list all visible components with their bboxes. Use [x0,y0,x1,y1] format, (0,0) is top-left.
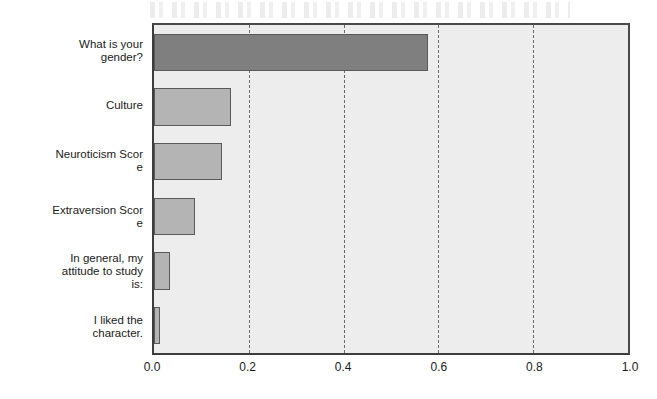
bar-band [154,298,628,353]
y-axis-label-5: I liked the character. [0,300,148,355]
bar-3 [154,198,195,235]
x-axis-tick-0.0: 0.0 [144,360,161,374]
plot-area [152,23,630,355]
y-axis-label-1: Culture [0,78,148,133]
bar-band [154,80,628,135]
x-axis-tick-0.8: 0.8 [526,360,543,374]
bar-chart: What is your gender?CultureNeuroticism S… [0,0,657,399]
y-axis-label-2: Neuroticism Scor e [0,134,148,189]
bar-band [154,134,628,189]
x-axis-tick-0.4: 0.4 [335,360,352,374]
y-axis-label-4: In general, my attitude to study is: [0,244,148,299]
x-axis-tick-0.6: 0.6 [430,360,447,374]
bar-2 [154,143,222,180]
bar-band [154,25,628,80]
bar-band [154,244,628,299]
x-axis-tick-0.2: 0.2 [239,360,256,374]
bar-band [154,189,628,244]
y-axis-labels: What is your gender?CultureNeuroticism S… [0,23,148,355]
x-axis-labels: 0.00.20.40.60.81.0 [152,360,630,380]
y-axis-label-0: What is your gender? [0,23,148,78]
bar-5 [154,307,160,344]
bar-4 [154,252,170,289]
scan-artifact-top [150,2,570,18]
bar-0 [154,34,428,71]
y-axis-label-3: Extraversion Scor e [0,189,148,244]
bar-series [154,25,628,353]
x-axis-tick-1.0: 1.0 [622,360,639,374]
bar-1 [154,88,231,125]
